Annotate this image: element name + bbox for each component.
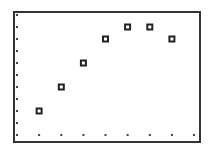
y-tick-dot	[16, 38, 18, 40]
data-point-marker-hole	[148, 26, 151, 29]
x-tick-dot	[82, 134, 84, 136]
y-tick-dot	[16, 14, 18, 16]
y-tick-dot	[16, 86, 18, 88]
data-point-marker-hole	[126, 26, 129, 29]
x-tick-dot	[193, 134, 195, 136]
x-tick-dot	[16, 134, 18, 136]
data-point-marker-hole	[170, 38, 173, 41]
x-tick-dot	[60, 134, 62, 136]
y-tick-dot	[16, 98, 18, 100]
y-tick-dot	[16, 26, 18, 28]
x-tick-dot	[38, 134, 40, 136]
tick-dots	[16, 14, 195, 136]
data-point-marker-hole	[38, 110, 41, 113]
data-points	[36, 24, 176, 115]
y-tick-dot	[16, 74, 18, 76]
scatter-plot	[0, 0, 209, 147]
x-tick-dot	[105, 134, 107, 136]
data-point-marker-hole	[104, 38, 107, 41]
x-tick-dot	[149, 134, 151, 136]
y-tick-dot	[16, 62, 18, 64]
y-tick-dot	[16, 110, 18, 112]
data-point-marker-hole	[82, 62, 85, 65]
y-tick-dot	[16, 122, 18, 124]
y-tick-dot	[16, 50, 18, 52]
data-point-marker-hole	[60, 86, 63, 89]
x-tick-dot	[171, 134, 173, 136]
x-tick-dot	[127, 134, 129, 136]
